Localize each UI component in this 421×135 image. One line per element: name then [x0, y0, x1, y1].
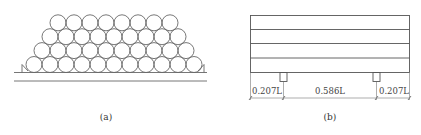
- log-circle: [74, 29, 90, 45]
- log-circle: [42, 57, 58, 73]
- log-circle: [82, 43, 98, 59]
- log-circle: [58, 29, 74, 45]
- log-circle: [122, 57, 138, 73]
- log-circle: [138, 57, 154, 73]
- log-circle: [130, 43, 146, 59]
- left-support: [280, 73, 287, 82]
- log-circle: [42, 29, 58, 45]
- caption-a: (a): [100, 112, 112, 122]
- dimension-right: 0.207L: [379, 86, 409, 96]
- panel-b-side-view: [251, 16, 410, 82]
- log-circle: [58, 57, 74, 73]
- log-circle: [154, 57, 170, 73]
- log-circle: [90, 29, 106, 45]
- log-circle: [106, 57, 122, 73]
- log-circle: [186, 57, 202, 73]
- log-circle: [26, 57, 42, 73]
- figure: (a) 0.207L 0.586L 0.207L (b): [0, 0, 421, 135]
- log-circle: [50, 15, 66, 31]
- log-circle: [154, 29, 170, 45]
- log-circle: [98, 43, 114, 59]
- log-circle: [146, 43, 162, 59]
- log-circle: [66, 43, 82, 59]
- log-circle: [162, 43, 178, 59]
- log-circle: [178, 43, 194, 59]
- dimension-middle: 0.586L: [315, 86, 345, 96]
- log-circle: [106, 29, 122, 45]
- log-circle: [170, 29, 186, 45]
- log-circle: [162, 15, 178, 31]
- log-circle: [114, 15, 130, 31]
- log-circle: [34, 43, 50, 59]
- log-circle: [98, 15, 114, 31]
- log-circle: [170, 57, 186, 73]
- log-circle: [82, 15, 98, 31]
- log-circle: [66, 15, 82, 31]
- log-circle: [90, 57, 106, 73]
- log-circle: [130, 15, 146, 31]
- right-support: [373, 73, 380, 82]
- log-circle: [50, 43, 66, 59]
- log-circle: [74, 57, 90, 73]
- log-circle: [146, 15, 162, 31]
- panel-a-log-stack: [26, 15, 202, 73]
- caption-b: (b): [324, 112, 337, 122]
- log-circle: [122, 29, 138, 45]
- log-circle: [138, 29, 154, 45]
- dimension-left: 0.207L: [252, 86, 282, 96]
- panel-a-ground: [14, 65, 207, 82]
- log-circle: [114, 43, 130, 59]
